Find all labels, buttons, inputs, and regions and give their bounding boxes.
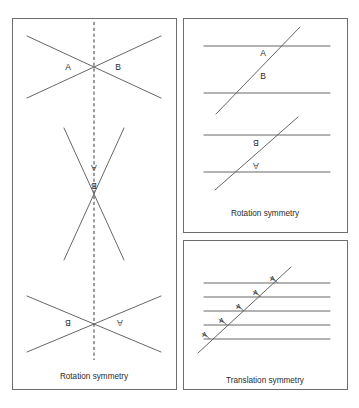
- angle-label-5: A: [202, 331, 207, 338]
- angle-label-2: A: [253, 289, 258, 296]
- transversal-upright-label-a: A: [260, 48, 266, 58]
- left-panel-caption: Rotation symmetry: [60, 372, 129, 381]
- x-crossing-middle-label-b: B: [91, 181, 97, 191]
- x-crossing-top-label-b: B: [115, 62, 121, 72]
- diagram-canvas: A B A B B A Rotation symmetry A B: [0, 0, 359, 408]
- angle-label-4: A: [219, 317, 224, 324]
- transversal-upright-label-b: B: [260, 71, 266, 81]
- bottom-right-panel-caption: Translation symmetry: [226, 376, 305, 385]
- symmetry-figure: A B A B B A Rotation symmetry A B: [0, 0, 359, 408]
- transversal-rotated-label-a: A: [253, 161, 259, 171]
- x-crossing-top-label-a: A: [65, 62, 71, 72]
- x-crossing-bottom-label-b: B: [65, 318, 71, 328]
- angle-label-1: A: [270, 275, 275, 282]
- x-crossing-bottom-label-a: A: [117, 318, 123, 328]
- angle-label-3: A: [236, 303, 241, 310]
- transversal-rotated-label-b: B: [253, 138, 259, 148]
- top-right-panel-caption: Rotation symmetry: [231, 209, 300, 218]
- bottom-right-panel-frame: [184, 241, 348, 390]
- x-crossing-middle-label-a: A: [91, 163, 97, 173]
